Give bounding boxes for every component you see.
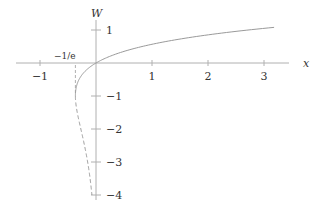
- x-tick-label: 1: [149, 70, 156, 83]
- y-tick-label: −2: [106, 123, 122, 136]
- x-tick-label: −1: [32, 70, 48, 83]
- y-axis-label: W: [91, 7, 104, 20]
- y-tick-label: −3: [106, 156, 122, 169]
- branch-point-label: −1/e: [54, 51, 76, 61]
- x-tick-label: 3: [261, 70, 268, 83]
- principal-branch-curve: [75, 27, 274, 96]
- y-tick-label: −4: [106, 189, 122, 202]
- x-axis-label: x: [303, 57, 310, 70]
- lambert-w-chart: −11231−1−2−3−4 W x −1/e: [0, 0, 323, 209]
- y-tick-label: −1: [106, 90, 122, 103]
- lower-branch-curve: [75, 96, 92, 195]
- x-tick-label: 2: [205, 70, 212, 83]
- y-tick-label: 1: [106, 24, 113, 37]
